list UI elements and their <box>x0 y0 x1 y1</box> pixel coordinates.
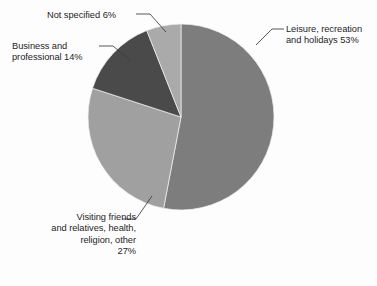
slice-label-visiting-friends: Visiting friends and relatives, health, … <box>18 212 136 258</box>
slice-label-not-specified: Not specified 6% <box>47 10 116 21</box>
slice-label-leisure: Leisure, recreation and holidays 53% <box>286 24 377 47</box>
leader-line-leisure <box>256 29 284 45</box>
slice-label-business-professional: Business and professional 14% <box>12 41 108 64</box>
pie-chart-figure: Not specified 6% Business and profession… <box>0 0 377 286</box>
